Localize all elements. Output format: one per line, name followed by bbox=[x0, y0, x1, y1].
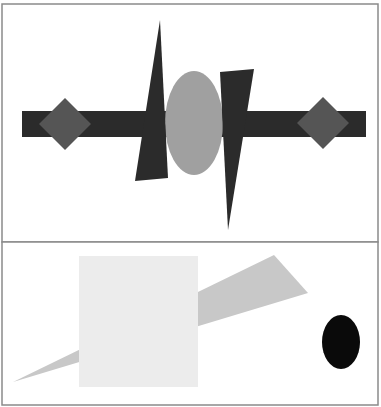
bottom-panel bbox=[2, 242, 378, 405]
ellipse bbox=[165, 71, 223, 175]
diagram-canvas bbox=[0, 0, 381, 407]
top-panel bbox=[2, 4, 378, 242]
square bbox=[79, 256, 198, 387]
black-ellipse bbox=[322, 315, 360, 369]
